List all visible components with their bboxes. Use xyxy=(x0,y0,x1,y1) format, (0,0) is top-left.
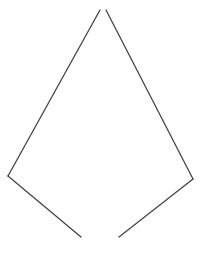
lower-left-edge xyxy=(8,176,81,237)
kite-outline-drawing xyxy=(0,0,202,255)
diagram-canvas xyxy=(0,0,202,255)
upper-right-edge xyxy=(106,10,193,179)
lower-right-edge xyxy=(119,179,193,237)
upper-left-edge xyxy=(8,10,100,176)
